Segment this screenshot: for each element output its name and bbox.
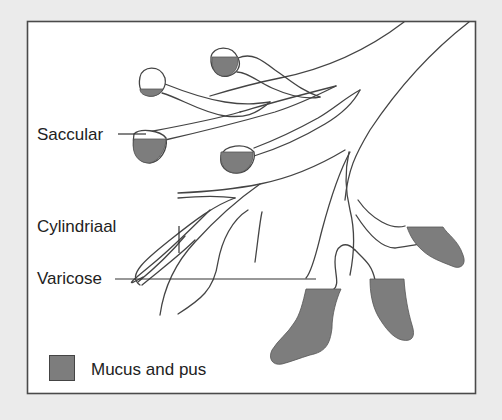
label-varicose: Varicose [37, 270, 102, 287]
label-saccular: Saccular [37, 126, 103, 143]
bronchiectasis-diagram [0, 0, 502, 420]
legend-swatch-mucus [49, 355, 75, 381]
legend-label-mucus: Mucus and pus [91, 361, 206, 378]
label-cylindrical: Cylindriaal [37, 218, 116, 235]
